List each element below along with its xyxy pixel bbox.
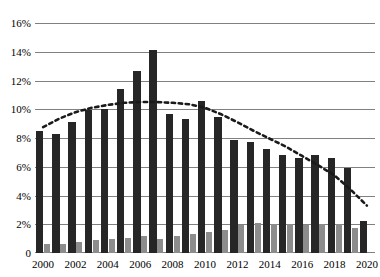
bar-gray [206,232,212,253]
chart-container: 02%4%6%8%10%12%14%16% 200020022004200620… [0,0,380,277]
bar-dark [52,134,59,253]
x-axis-tick-label: 2008 [162,258,184,270]
bar-gray [271,224,277,253]
y-axis-tick-label: 16% [11,18,31,29]
bar-gray [352,228,358,253]
bar-group [52,23,66,253]
bar-group [36,23,50,253]
bar-gray [287,224,293,253]
bar-gray [222,230,228,253]
x-axis-tick-label: 2014 [259,258,281,270]
bar-group [149,23,163,253]
x-axis-tick-label: 2004 [97,258,119,270]
bar-gray [44,244,50,253]
y-axis-tick-label: 0 [26,248,32,259]
bar-dark [117,89,124,253]
bar-dark [263,149,270,253]
bar-dark [101,109,108,253]
bar-group [247,23,261,253]
y-axis-tick-label: 14% [11,46,31,57]
bar-gray [336,224,342,253]
bar-group [182,23,196,253]
bar-group [279,23,293,253]
x-axis-tick-label: 2020 [356,258,378,270]
x-axis-tick-label: 2016 [291,258,313,270]
bar-gray [125,238,131,253]
y-axis-tick-label: 6% [16,161,31,172]
bar-group [311,23,325,253]
bar-group [328,23,342,253]
bar-gray [76,242,82,253]
bar-dark [279,155,286,253]
bar-gray [157,239,163,253]
bar-dark [247,142,254,253]
bar-group [360,23,374,253]
bar-group [263,23,277,253]
y-axis: 02%4%6%8%10%12%14%16% [0,0,31,277]
y-axis-tick-label: 4% [16,190,31,201]
x-axis-tick-label: 2012 [226,258,248,270]
bar-gray [319,224,325,253]
bar-group [117,23,131,253]
bar-dark [230,140,237,253]
bar-group [344,23,358,253]
bar-group [85,23,99,253]
bar-dark [166,114,173,253]
x-axis-tick-label: 2018 [324,258,346,270]
plot-area [35,23,375,253]
bar-dark [85,110,92,253]
bar-group [198,23,212,253]
bar-group [166,23,180,253]
bar-dark [295,158,302,253]
bar-group [68,23,82,253]
bar-group [230,23,244,253]
bar-gray [190,234,196,253]
x-axis-tick-label: 2000 [32,258,54,270]
x-axis-tick-label: 2010 [194,258,216,270]
y-axis-tick-label: 12% [11,75,31,86]
bar-gray [60,244,66,253]
bar-dark [328,158,335,253]
bar-gray [303,225,309,253]
bar-dark [344,168,351,253]
bar-gray [109,239,115,253]
bar-gray [238,225,244,253]
y-axis-tick-label: 8% [16,133,31,144]
bar-dark [198,101,205,253]
x-axis-tick-label: 2006 [129,258,151,270]
bar-group [101,23,115,253]
x-axis: 2000200220042006200820102012201420162018… [35,256,375,277]
bar-dark [182,119,189,253]
y-axis-tick-label: 10% [11,104,31,115]
bar-gray [141,236,147,253]
bar-dark [36,131,43,253]
bar-dark [360,221,367,253]
bar-dark [133,71,140,253]
bar-group [214,23,228,253]
bar-gray [93,240,99,253]
bar-dark [68,122,75,253]
bar-gray [255,223,261,253]
bar-group [295,23,309,253]
bar-dark [214,117,221,253]
bar-dark [311,155,318,253]
bar-group [133,23,147,253]
y-axis-tick-label: 2% [16,219,31,230]
bar-dark [149,50,156,253]
bar-gray [174,236,180,253]
x-axis-tick-label: 2002 [64,258,86,270]
